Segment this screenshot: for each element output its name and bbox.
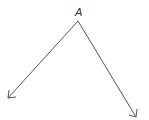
- left-ray: [8, 21, 78, 98]
- right-ray: [78, 21, 137, 117]
- angle-diagram: A: [0, 0, 149, 120]
- vertex-label-a: A: [74, 6, 83, 19]
